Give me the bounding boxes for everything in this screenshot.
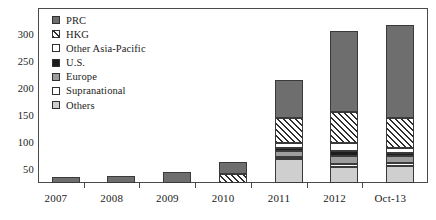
- legend-label: HKG: [66, 29, 89, 40]
- x-tick-mark: [362, 183, 363, 188]
- bar-segment-other-asia-pacific: [275, 143, 303, 148]
- bar-segment-prc: [52, 177, 80, 183]
- x-tick-label-2010: 2010: [195, 192, 251, 204]
- legend-item-other-asia-pacific: Other Asia-Pacific: [52, 41, 182, 55]
- bar-segment-supranational: [330, 164, 358, 167]
- legend-swatch-others-icon: [52, 101, 60, 109]
- x-tick-label-2008: 2008: [84, 192, 140, 204]
- x-tick-mark: [139, 183, 140, 188]
- x-tick-mark: [84, 183, 85, 188]
- bar-2011: [275, 80, 303, 183]
- legend-label: Europe: [66, 71, 97, 82]
- legend-label: PRC: [66, 15, 86, 26]
- bar-segment-prc: [163, 172, 191, 183]
- bar-2012: [330, 31, 358, 183]
- y-tick-label: 300: [0, 30, 34, 40]
- bar-segment-hkg: [219, 174, 247, 183]
- bar-2008: [107, 176, 135, 183]
- legend-item-others: Others: [52, 98, 182, 112]
- bar-segment-other-asia-pacific: [330, 143, 358, 151]
- bar-segment-others: [275, 159, 303, 183]
- legend-item-prc: PRC: [52, 13, 182, 27]
- legend-item-europe: Europe: [52, 70, 182, 84]
- legend-swatch-us-icon: [52, 59, 60, 67]
- x-tick-label-oct-13: Oct-13: [362, 192, 418, 204]
- bar-2009: [163, 172, 191, 183]
- legend-label: U.S.: [66, 57, 85, 68]
- bar-segment-europe: [330, 156, 358, 165]
- bar-segment-supranational: [386, 163, 414, 166]
- y-axis: 300 250 200 150 100 50: [0, 8, 34, 183]
- legend-swatch-europe-icon: [52, 73, 60, 81]
- legend-swatch-supranational-icon: [52, 87, 60, 95]
- bar-segment-prc: [219, 162, 247, 175]
- legend-swatch-prc-icon: [52, 16, 60, 24]
- bar-segment-us: [386, 153, 414, 156]
- x-tick-mark: [195, 183, 196, 188]
- legend-swatch-hkg-icon: [52, 30, 60, 38]
- bar-segment-europe: [386, 156, 414, 163]
- bar-segment-prc: [275, 80, 303, 119]
- legend-swatch-other-asia-pacific-icon: [52, 44, 60, 52]
- bar-segment-hkg: [330, 112, 358, 143]
- legend-label: Other Asia-Pacific: [66, 43, 146, 54]
- x-tick-mark: [307, 183, 308, 188]
- bar-segment-us: [330, 151, 358, 155]
- legend: PRC HKG Other Asia-Pacific U.S. Europe S…: [52, 13, 182, 112]
- x-tick-mark: [251, 183, 252, 188]
- legend-label: Supranational: [66, 85, 126, 96]
- y-tick-label: 50: [0, 165, 34, 175]
- y-tick-label: 150: [0, 111, 34, 121]
- legend-label: Others: [66, 100, 95, 111]
- bar-2010: [219, 162, 247, 184]
- bar-2007: [52, 177, 80, 183]
- bar-segment-others: [386, 166, 414, 183]
- bar-segment-us: [275, 148, 303, 151]
- y-tick-label: 250: [0, 57, 34, 67]
- bar-segment-prc: [107, 176, 135, 183]
- x-tick-label-2011: 2011: [251, 192, 307, 204]
- bar-segment-others: [330, 167, 358, 183]
- bar-segment-europe: [275, 151, 303, 156]
- stacked-bar-chart: 300 250 200 150 100 50: [0, 0, 436, 220]
- bar-oct-13: [386, 25, 414, 183]
- x-tick-label-2012: 2012: [307, 192, 363, 204]
- bar-segment-hkg: [386, 118, 414, 148]
- bar-segment-prc: [330, 31, 358, 112]
- bar-segment-hkg: [275, 118, 303, 143]
- x-tick-label-2009: 2009: [139, 192, 195, 204]
- bar-segment-prc: [386, 25, 414, 118]
- bar-segment-other-asia-pacific: [386, 148, 414, 153]
- x-tick-label-2007: 2007: [28, 192, 84, 204]
- y-tick-label: 100: [0, 138, 34, 148]
- bar-segment-supranational: [275, 157, 303, 159]
- legend-item-hkg: HKG: [52, 27, 182, 41]
- legend-item-us: U.S.: [52, 56, 182, 70]
- y-tick-label: 200: [0, 84, 34, 94]
- legend-item-supranational: Supranational: [52, 84, 182, 98]
